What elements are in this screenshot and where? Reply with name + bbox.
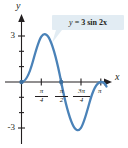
x-tick-pi4-denominator: 4 bbox=[35, 97, 48, 104]
x-tick-label-pi-over-2: π 2 bbox=[55, 88, 68, 105]
y-axis-label: y bbox=[16, 1, 20, 11]
equation-callout: y = 3 sin 2x bbox=[52, 15, 124, 30]
x-tick-label-pi: π bbox=[98, 88, 102, 95]
x-tick-3pi4-denominator: 4 bbox=[73, 97, 90, 104]
y-tick-label-3: 3 bbox=[2, 31, 15, 40]
x-tick-3pi4-numerator: 3π bbox=[73, 88, 90, 95]
equation-function: sin bbox=[87, 18, 97, 27]
equation-argument: 2x bbox=[99, 18, 107, 27]
callout-pointer bbox=[52, 30, 62, 43]
sine-graph-figure: y x 3 -3 π 4 π 2 3π 4 π y = 3 sin 2x bbox=[0, 0, 128, 148]
x-tick-pi2-numerator: π bbox=[55, 88, 68, 95]
y-tick-label-neg3: -3 bbox=[0, 123, 15, 132]
y-axis bbox=[18, 14, 25, 144]
x-tick-label-3pi-over-4: 3π 4 bbox=[73, 88, 90, 105]
x-tick-label-pi-over-4: π 4 bbox=[35, 88, 48, 105]
x-axis-label: x bbox=[115, 72, 119, 82]
x-tick-pi4-numerator: π bbox=[35, 88, 48, 95]
equation-callout-text: y = 3 sin 2x bbox=[69, 18, 107, 27]
x-tick-pi2-denominator: 2 bbox=[55, 97, 68, 104]
